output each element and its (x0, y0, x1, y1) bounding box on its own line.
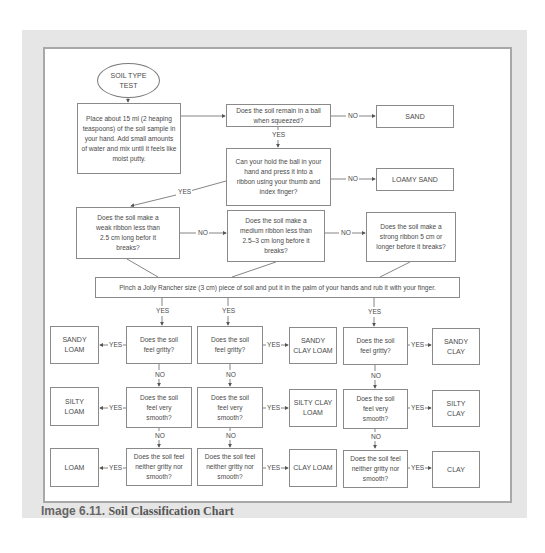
edge-label-yes-clay: YES (410, 464, 425, 472)
start-node-soil-type-test: SOIL TYPE TEST (97, 63, 160, 98)
question-gritty-col1: Does the soil feel gritty? (126, 326, 192, 364)
result-silty-clay-text: SILTY CLAY (441, 399, 471, 419)
question-smooth-col2: Does the soil feel very smooth? (197, 387, 263, 428)
edge-label-yes-sandy-clay-loam: YES (266, 341, 281, 349)
edge-label-no-sand: NO (347, 112, 359, 120)
edge-label-no-r1c2: NO (225, 371, 237, 379)
result-clay-text: CLAY (447, 465, 465, 475)
question-gritty-col2: Does the soil feel gritty? (197, 326, 263, 364)
result-silty-loam-text: SILTY LOAM (59, 397, 90, 417)
edge-label-no-r2c2: NO (225, 432, 237, 440)
question-form-ribbon: Can your hold the ball in your hand and … (226, 148, 331, 206)
result-sandy-clay-loam-text: SANDY CLAY LOAM (293, 336, 333, 356)
question-weak-ribbon: Does the soil make a weak ribbon less th… (76, 207, 180, 259)
question-remain-in-ball: Does the soil remain in a ball when sque… (226, 104, 331, 127)
step-prepare-sample: Place about 15 ml (2 heaping teaspoons) … (77, 103, 181, 174)
question-smooth-col1-text: Does the soil feel very smooth? (139, 393, 179, 423)
result-clay: CLAY (432, 451, 480, 488)
question-neither-col2-text: Does the soil feel neither gritty nor sm… (201, 452, 259, 482)
question-gritty-col3: Does the soil feel gritty? (343, 327, 408, 365)
result-sandy-clay-loam: SANDY CLAY LOAM (289, 327, 337, 364)
question-medium-ribbon: Does the soil make a medium ribbon less … (227, 210, 325, 262)
result-silty-clay-loam-text: SILTY CLAY LOAM (293, 398, 333, 418)
result-sandy-loam: SANDY LOAM (50, 326, 99, 364)
edge-label-no-r2c1: NO (154, 432, 166, 440)
edge-label-yes-ribbon: YES (177, 188, 192, 196)
question-neither-col2: Does the soil feel neither gritty nor sm… (197, 448, 263, 486)
result-sand-text: SAND (405, 112, 424, 122)
edge-label-yes-silty-clay-loam: YES (266, 404, 281, 412)
question-smooth-col1: Does the soil feel very smooth? (126, 387, 192, 428)
edge-label-yes-silty-clay: YES (410, 404, 425, 412)
question-neither-col1-text: Does the soil feel neither gritty nor sm… (130, 452, 188, 482)
step-prepare-text: Place about 15 ml (2 heaping teaspoons) … (81, 114, 177, 164)
question-medium-text: Does the soil make a medium ribbon less … (240, 216, 312, 256)
result-sand: SAND (376, 105, 454, 128)
edge-label-no-r1c1: NO (154, 371, 166, 379)
edge-label-yes-silty-loam: YES (108, 404, 123, 412)
step-pinch-text: Pinch a Jolly Rancher size (3 cm) piece … (119, 283, 436, 293)
edge-label-no-loamy-sand: NO (347, 175, 359, 183)
edge-label-yes-medium-down: YES (221, 307, 236, 315)
result-loam: LOAM (50, 448, 99, 487)
question-strong-ribbon: Does the soil make a strong ribbon 5 cm … (366, 212, 456, 262)
question-gritty-col3-text: Does the soil feel gritty? (352, 336, 399, 356)
edge-label-no-r1c3: NO (370, 372, 382, 380)
edge-label-yes-ball: YES (271, 131, 286, 139)
result-loam-text: LOAM (65, 463, 85, 473)
edge-label-yes-clay-loam: YES (266, 464, 281, 472)
question-neither-col3-text: Does the soil feel neither gritty nor sm… (347, 454, 404, 484)
question-smooth-col3-text: Does the soil feel very smooth? (356, 394, 395, 424)
question-neither-col1: Does the soil feel neither gritty nor sm… (126, 448, 192, 486)
edge-label-yes-sandy-loam: YES (108, 341, 123, 349)
question-strong-text: Does the soil make a strong ribbon 5 cm … (375, 222, 447, 252)
result-silty-clay: SILTY CLAY (432, 390, 480, 427)
caption-number: Image 6.11. (41, 504, 105, 518)
question-weak-text: Does the soil make a weak ribbon less th… (91, 213, 165, 253)
edge-label-yes-sandy-clay: YES (410, 341, 425, 349)
start-label-line2: TEST (111, 81, 147, 91)
edge-label-no-medium: NO (340, 229, 352, 237)
question-smooth-col2-text: Does the soil feel very smooth? (210, 393, 250, 423)
edge-label-yes-strong-down: YES (367, 308, 382, 316)
edge-label-yes-weak-down: YES (155, 307, 170, 315)
question-gritty-col2-text: Does the soil feel gritty? (206, 335, 254, 355)
question-ball-text: Does the soil remain in a ball when sque… (230, 106, 327, 126)
result-silty-clay-loam: SILTY CLAY LOAM (289, 389, 337, 427)
result-loamy-sand-text: LOAMY SAND (392, 175, 438, 185)
result-sandy-loam-text: SANDY LOAM (59, 335, 90, 355)
question-smooth-col3: Does the soil feel very smooth? (343, 389, 408, 429)
question-gritty-col1-text: Does the soil feel gritty? (135, 335, 183, 355)
result-loamy-sand: LOAMY SAND (376, 168, 454, 191)
question-ribbon-text: Can your hold the ball in your hand and … (235, 157, 322, 197)
edge-label-no-r2c3: NO (370, 433, 382, 441)
edge-label-yes-loam: YES (108, 464, 123, 472)
result-clay-loam: CLAY LOAM (289, 449, 337, 487)
result-sandy-clay-text: SANDY CLAY (441, 337, 471, 357)
start-label-line1: SOIL TYPE (111, 71, 147, 81)
figure-caption: Image 6.11. Soil Classification Chart (41, 504, 234, 519)
edge-label-no-weak: NO (197, 229, 209, 237)
result-clay-loam-text: CLAY LOAM (293, 463, 332, 473)
caption-title: Soil Classification Chart (108, 504, 233, 518)
result-sandy-clay: SANDY CLAY (432, 328, 480, 365)
step-pinch-and-rub: Pinch a Jolly Rancher size (3 cm) piece … (95, 277, 460, 298)
result-silty-loam: SILTY LOAM (50, 387, 99, 426)
question-neither-col3: Does the soil feel neither gritty nor sm… (343, 450, 408, 488)
